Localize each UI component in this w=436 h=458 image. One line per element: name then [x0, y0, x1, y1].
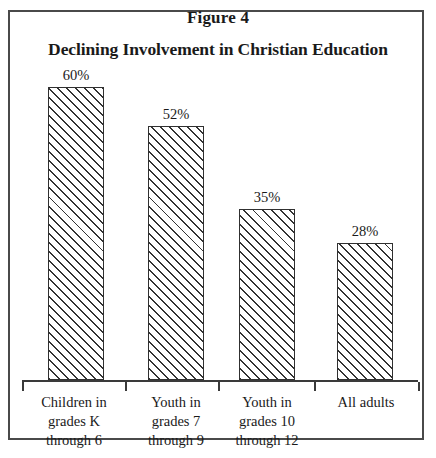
axis-tick	[314, 382, 316, 391]
bar-data-label: 60%	[48, 67, 104, 84]
category-label-line: All adults	[306, 393, 426, 412]
bar-rect[interactable]	[48, 87, 104, 380]
category-label: All adults	[306, 393, 426, 412]
bar-group: 28%	[337, 243, 393, 380]
bar-data-label: 35%	[239, 189, 295, 206]
bar-rect[interactable]	[337, 243, 393, 380]
category-label-line: grades 10	[207, 412, 327, 431]
bar-group: 52%	[148, 126, 204, 380]
bar-chart-plot-area: 60% 52% 35% 28% Children ingrades Kthrou…	[0, 0, 436, 458]
bar-data-label: 52%	[148, 106, 204, 123]
axis-tick	[418, 382, 420, 391]
bar-rect[interactable]	[239, 209, 295, 380]
bar-rect[interactable]	[148, 126, 204, 380]
axis-tick	[22, 382, 24, 391]
bar-group: 60%	[48, 87, 104, 380]
axis-tick	[218, 382, 220, 391]
axis-tick	[125, 382, 127, 391]
category-label-line: through 12	[207, 431, 327, 450]
bar-group: 35%	[239, 209, 295, 380]
bar-data-label: 28%	[337, 223, 393, 240]
category-axis-line	[22, 380, 418, 382]
